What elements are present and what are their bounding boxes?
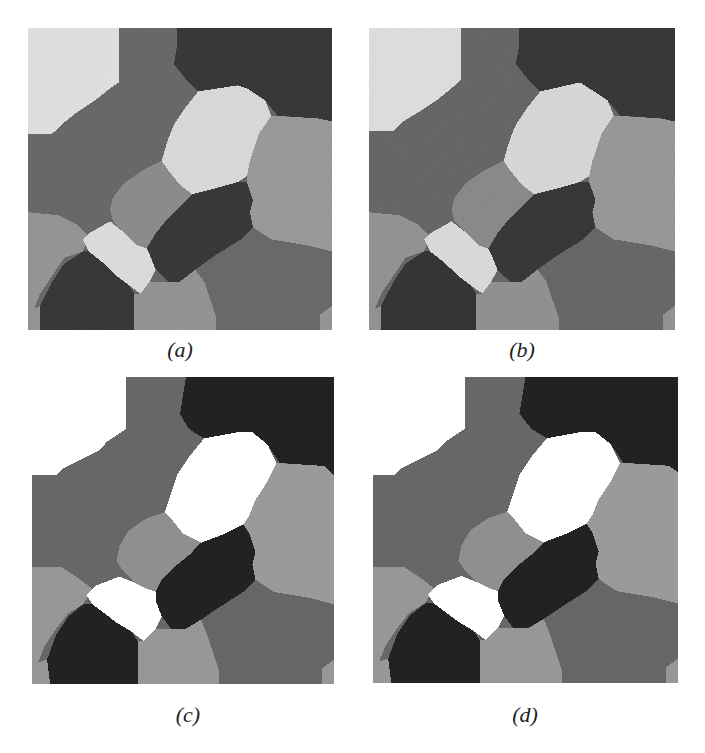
segmentation-image-b xyxy=(369,28,675,330)
segmentation-image-c xyxy=(32,377,334,684)
caption-c: (c) xyxy=(128,702,248,728)
segmentation-image-d xyxy=(373,377,678,683)
figure-panel-b xyxy=(369,28,675,330)
caption-d: (d) xyxy=(465,702,585,728)
caption-a: (a) xyxy=(120,337,240,363)
figure-panel-c xyxy=(32,377,334,684)
caption-b: (b) xyxy=(462,337,582,363)
segmentation-image-a xyxy=(28,28,332,330)
figure-panel-a xyxy=(28,28,332,330)
figure-panel-d xyxy=(373,377,678,683)
